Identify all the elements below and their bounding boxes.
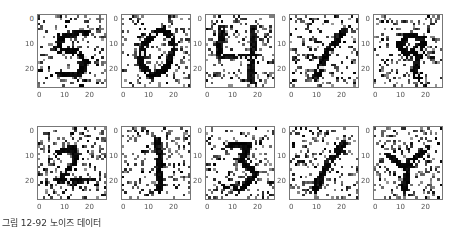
y-tick-label: 0	[358, 128, 370, 135]
subplot-0-0	[37, 14, 107, 88]
y-tick-label: 10	[106, 41, 118, 48]
y-tick-label: 10	[274, 153, 286, 160]
x-tick-label: 10	[312, 92, 321, 99]
y-tick-label: 20	[274, 66, 286, 73]
x-tick-label: 0	[37, 204, 41, 211]
noisy-digit-image	[290, 127, 358, 199]
y-tick-label: 0	[274, 128, 286, 135]
figure-caption: 그림 12-92 노이즈 데이터	[2, 216, 101, 229]
x-tick-label: 0	[289, 204, 293, 211]
x-tick-label: 20	[421, 92, 430, 99]
x-tick-label: 0	[121, 92, 125, 99]
y-tick-label: 20	[22, 66, 34, 73]
noisy-digit-image	[122, 127, 190, 199]
y-tick-label: 20	[22, 178, 34, 185]
y-tick-label: 10	[22, 41, 34, 48]
y-tick-label: 0	[22, 128, 34, 135]
x-tick-label: 0	[37, 92, 41, 99]
x-tick-label: 10	[60, 92, 69, 99]
x-tick-label: 10	[396, 92, 405, 99]
x-tick-label: 20	[253, 204, 262, 211]
x-tick-label: 10	[312, 204, 321, 211]
x-tick-label: 0	[373, 92, 377, 99]
y-tick-label: 10	[274, 41, 286, 48]
x-tick-label: 20	[337, 204, 346, 211]
x-tick-label: 0	[121, 204, 125, 211]
y-tick-label: 0	[274, 16, 286, 23]
y-tick-label: 10	[22, 153, 34, 160]
x-tick-label: 0	[373, 204, 377, 211]
noisy-digit-image	[290, 15, 358, 87]
y-tick-label: 0	[358, 16, 370, 23]
x-tick-label: 10	[144, 204, 153, 211]
x-tick-label: 10	[144, 92, 153, 99]
subplot-1-1	[121, 126, 191, 200]
y-tick-label: 10	[106, 153, 118, 160]
x-tick-label: 20	[421, 204, 430, 211]
noisy-digit-image	[38, 127, 106, 199]
x-tick-label: 10	[396, 204, 405, 211]
y-tick-label: 0	[190, 128, 202, 135]
subplot-0-4	[373, 14, 443, 88]
subplot-1-4	[373, 126, 443, 200]
noisy-digit-image	[206, 15, 274, 87]
x-tick-label: 20	[253, 92, 262, 99]
noisy-digit-image	[38, 15, 106, 87]
noisy-digit-image	[206, 127, 274, 199]
y-tick-label: 0	[106, 128, 118, 135]
y-tick-label: 10	[190, 153, 202, 160]
x-tick-label: 0	[205, 204, 209, 211]
y-tick-label: 20	[106, 178, 118, 185]
subplot-1-3	[289, 126, 359, 200]
subplot-1-2	[205, 126, 275, 200]
y-tick-label: 0	[190, 16, 202, 23]
noisy-digit-image	[374, 127, 442, 199]
y-tick-label: 10	[190, 41, 202, 48]
y-tick-label: 20	[190, 178, 202, 185]
subplot-0-1	[121, 14, 191, 88]
subplot-1-0	[37, 126, 107, 200]
x-tick-label: 20	[85, 92, 94, 99]
noisy-digit-image	[374, 15, 442, 87]
x-tick-label: 20	[85, 204, 94, 211]
subplot-0-3	[289, 14, 359, 88]
x-tick-label: 10	[228, 204, 237, 211]
y-tick-label: 10	[358, 41, 370, 48]
y-tick-label: 20	[358, 66, 370, 73]
y-tick-label: 0	[106, 16, 118, 23]
x-tick-label: 0	[205, 92, 209, 99]
x-tick-label: 20	[337, 92, 346, 99]
x-tick-label: 20	[169, 204, 178, 211]
x-tick-label: 10	[60, 204, 69, 211]
y-tick-label: 20	[358, 178, 370, 185]
y-tick-label: 20	[106, 66, 118, 73]
y-tick-label: 20	[190, 66, 202, 73]
y-tick-label: 0	[22, 16, 34, 23]
noisy-digit-image	[122, 15, 190, 87]
x-tick-label: 0	[289, 92, 293, 99]
y-tick-label: 20	[274, 178, 286, 185]
x-tick-label: 10	[228, 92, 237, 99]
subplot-0-2	[205, 14, 275, 88]
y-tick-label: 10	[358, 153, 370, 160]
x-tick-label: 20	[169, 92, 178, 99]
